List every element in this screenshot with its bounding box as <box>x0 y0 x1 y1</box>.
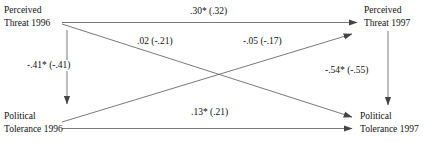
path-diagram: Perceived Threat 1996 Perceived Threat 1… <box>0 0 429 142</box>
node-label-line2: Threat 1996 <box>4 17 50 30</box>
node-perceived-threat-1996: Perceived Threat 1996 <box>4 4 50 29</box>
edge-label-pt96-to-pol97: .02 (-.21) <box>136 36 174 47</box>
node-label-line1: Political <box>360 110 419 123</box>
node-label-line1: Perceived <box>4 4 50 17</box>
edge-label-pt96-to-pol96: -.41* (-.41) <box>26 60 72 71</box>
edge-label-pt97-to-pol97: -.54* (-.55) <box>324 65 370 76</box>
node-political-tolerance-1996: Political Tolerance 1996 <box>4 110 63 135</box>
node-perceived-threat-1997: Perceived Threat 1997 <box>364 4 410 29</box>
node-label-line2: Tolerance 1996 <box>4 123 63 136</box>
node-label-line1: Political <box>4 110 63 123</box>
node-political-tolerance-1997: Political Tolerance 1997 <box>360 110 419 135</box>
edge-label-pol96-to-pt97: -.05 (-.17) <box>242 36 283 47</box>
node-label-line2: Tolerance 1997 <box>360 123 419 136</box>
node-label-line2: Threat 1997 <box>364 17 410 30</box>
node-label-line1: Perceived <box>364 4 410 17</box>
edge-label-pt96-to-pt97: .30* (.32) <box>189 6 228 17</box>
edge-label-pol96-to-pol97: .13* (.21) <box>190 107 229 118</box>
edge-pt96-to-pol97 <box>62 24 352 117</box>
